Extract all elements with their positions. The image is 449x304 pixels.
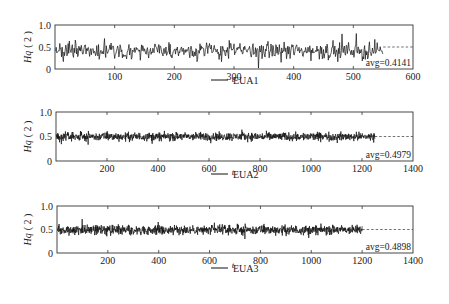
legend-label: EUA1 <box>233 75 259 86</box>
y-tick-label: 0.5 <box>39 42 52 53</box>
x-tick-label: 600 <box>202 255 217 266</box>
avg-annotation: avg=0.4979 <box>366 150 411 160</box>
chart-panel-2: 20040060080010001200140000.51.0Hq( 2 )av… <box>22 107 423 180</box>
y-axis-label-main: Hq <box>22 233 33 246</box>
x-tick-label: 200 <box>100 255 115 266</box>
y-tick-label: 0 <box>48 248 53 259</box>
chart-panel-1: 10020030040050060000.51.0Hq( 2 )avg=0.41… <box>22 20 421 86</box>
x-tick-label: 1400 <box>403 255 423 266</box>
y-axis-label-main: Hq <box>22 51 33 64</box>
legend-label: EUA2 <box>233 169 259 180</box>
x-tick-label: 400 <box>286 71 301 82</box>
y-axis-label: Hq( 2 ) <box>22 121 34 154</box>
y-axis-label-main: Hq <box>22 140 33 153</box>
x-tick-label: 1400 <box>403 163 423 174</box>
x-tick-label: 500 <box>346 71 361 82</box>
y-tick-label: 0.5 <box>41 224 54 235</box>
avg-annotation: avg=0.4898 <box>366 242 411 252</box>
x-tick-label: 600 <box>202 163 217 174</box>
x-tick-label: 400 <box>151 255 166 266</box>
y-axis-label-arg: ( 2 ) <box>22 31 34 48</box>
y-axis-label-arg: ( 2 ) <box>22 214 34 231</box>
x-tick-label: 100 <box>107 71 122 82</box>
y-tick-label: 0.5 <box>40 131 53 142</box>
y-tick-label: 0 <box>46 64 51 75</box>
x-tick-label: 400 <box>151 163 166 174</box>
x-tick-label: 1200 <box>352 163 372 174</box>
y-tick-label: 1.0 <box>39 20 52 31</box>
x-tick-label: 1000 <box>301 255 321 266</box>
x-tick-label: 600 <box>406 71 421 82</box>
data-series-line <box>57 219 362 239</box>
x-tick-label: 1000 <box>301 163 321 174</box>
legend: EUA3 <box>211 263 259 274</box>
legend: EUA1 <box>211 75 259 86</box>
chart-panel-3: 20040060080010001200140000.51.0Hq( 2 )av… <box>22 201 423 274</box>
data-series-line <box>56 34 384 69</box>
avg-annotation: avg=0.4141 <box>366 58 411 68</box>
y-axis-label: Hq( 2 ) <box>22 31 34 64</box>
y-tick-label: 0 <box>47 156 52 167</box>
y-tick-label: 1.0 <box>41 201 54 212</box>
legend: EUA2 <box>211 169 259 180</box>
legend-label: EUA3 <box>233 263 259 274</box>
y-axis-label: Hq( 2 ) <box>22 214 34 247</box>
figure: 10020030040050060000.51.0Hq( 2 )avg=0.41… <box>0 0 449 304</box>
x-tick-label: 200 <box>100 163 115 174</box>
y-tick-label: 1.0 <box>40 107 53 118</box>
x-tick-label: 200 <box>167 71 182 82</box>
y-axis-label-arg: ( 2 ) <box>22 121 34 138</box>
x-tick-label: 1200 <box>352 255 372 266</box>
data-series-line <box>56 130 374 145</box>
